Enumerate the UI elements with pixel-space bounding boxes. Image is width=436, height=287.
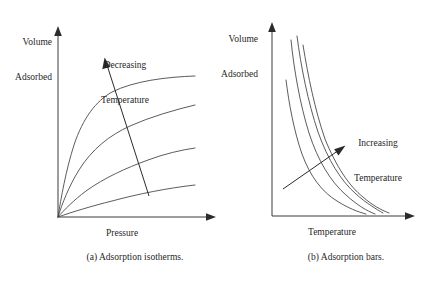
panel-b-annotation-line1: Increasing xyxy=(342,138,414,150)
panel-b-annotation-label: Increasing Temperature xyxy=(342,115,414,207)
panel-b-y-axis-label: Volume Adsorbed xyxy=(210,11,258,103)
panel-b-x-axis-label: Temperature xyxy=(308,227,356,238)
panel-b-y-axis-label-line2: Adsorbed xyxy=(210,69,258,81)
panel-b-x-axis xyxy=(272,212,415,220)
panel-b-y-axis-label-line1: Volume xyxy=(210,34,258,46)
panel-b-annotation-line2: Temperature xyxy=(342,173,414,185)
panel-b-y-axis xyxy=(268,22,276,216)
panel-b-annotation-arrow xyxy=(283,146,346,190)
figure-root: Volume Adsorbed Pressure Decreasing Temp… xyxy=(0,0,436,287)
panel-b-caption: (b) Adsorption bars. xyxy=(236,252,436,263)
